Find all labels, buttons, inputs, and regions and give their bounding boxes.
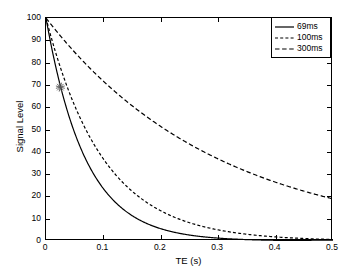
y-tick	[46, 85, 50, 86]
y-tick	[327, 219, 331, 220]
y-tick	[46, 63, 50, 64]
x-tick-label: 0.4	[255, 242, 295, 252]
y-tick-label: 20	[0, 191, 41, 199]
y-tick-label: 80	[0, 58, 41, 66]
y-tick	[46, 219, 50, 220]
chart-legend: 69ms100ms300ms	[271, 17, 331, 58]
y-tick	[327, 174, 331, 175]
x-tick	[161, 235, 162, 239]
legend-item-100ms: 100ms	[274, 32, 327, 43]
figure: 00.10.20.30.40.5 0102030405060708090100 …	[0, 0, 349, 279]
legend-line-sample	[274, 34, 295, 42]
x-tick	[103, 18, 104, 22]
y-tick-label: 0	[0, 236, 41, 244]
y-tick	[327, 196, 331, 197]
y-tick	[46, 40, 50, 41]
legend-item-300ms: 300ms	[274, 43, 327, 54]
y-axis-title: Signal Level	[14, 67, 25, 187]
x-tick-label: 0.5	[312, 242, 349, 252]
y-tick-label: 10	[0, 214, 41, 222]
legend-label: 300ms	[295, 44, 323, 53]
legend-line-sample	[274, 23, 295, 31]
legend-label: 69ms	[295, 22, 318, 31]
x-tick	[161, 18, 162, 22]
legend-label: 100ms	[295, 33, 323, 42]
y-tick	[46, 196, 50, 197]
y-tick	[46, 174, 50, 175]
x-tick-label: 0.2	[140, 242, 180, 252]
y-tick-label: 100	[0, 13, 41, 21]
x-tick-label: 0.1	[82, 242, 122, 252]
y-tick	[327, 130, 331, 131]
y-tick	[327, 85, 331, 86]
legend-item-69ms: 69ms	[274, 21, 327, 32]
y-tick	[46, 152, 50, 153]
y-tick	[46, 130, 50, 131]
y-tick	[327, 152, 331, 153]
x-tick	[218, 18, 219, 22]
x-tick	[218, 235, 219, 239]
x-tick-label: 0.3	[197, 242, 237, 252]
x-tick	[103, 235, 104, 239]
y-tick-label: 90	[0, 35, 41, 43]
legend-line-sample	[274, 45, 295, 53]
x-tick	[276, 235, 277, 239]
y-tick	[327, 63, 331, 64]
y-tick	[46, 107, 50, 108]
y-tick	[327, 107, 331, 108]
x-axis-title: TE (s)	[45, 255, 332, 266]
